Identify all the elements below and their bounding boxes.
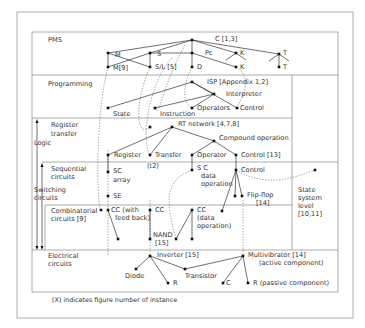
label-Inv: Inverter [15] <box>157 251 199 259</box>
annotation-label: [15] <box>155 239 169 247</box>
label-M: M <box>115 51 121 59</box>
label-Transistor: Transistor <box>184 272 217 280</box>
node-CCfb <box>107 209 110 212</box>
level-programming: Programming <box>48 80 92 88</box>
node-RT <box>171 126 174 129</box>
label-Operator: Operator <box>197 151 227 159</box>
figure-caption: [X] indicates figure number of instance <box>52 296 177 304</box>
label-D: D <box>197 63 202 71</box>
label-ISP: ISP [Appendix 1,2] <box>207 78 268 86</box>
abstraction-levels-diagram: PMS Programming Register transfer Logic … <box>0 0 365 328</box>
label-SE: SE <box>113 192 121 200</box>
node-SL <box>149 66 152 69</box>
node-SCdata <box>191 169 194 172</box>
level-pms: PMS <box>48 36 62 44</box>
node-Oper <box>191 107 194 110</box>
label-Reg: Register <box>114 151 141 159</box>
node-M <box>107 52 110 55</box>
node-T1 <box>278 53 281 56</box>
label-CC: CC <box>155 206 165 214</box>
node-FF1 <box>234 195 237 198</box>
node-S <box>149 52 152 55</box>
node-CCd2 <box>191 238 194 241</box>
node-C <box>191 39 194 42</box>
level-combinatorial-2: circuits [9] <box>51 215 86 223</box>
label-M9: M[9] <box>113 64 128 72</box>
node-K1 <box>235 52 238 55</box>
level-switching-1: Switching <box>34 186 66 194</box>
node-Comp <box>213 140 216 143</box>
level-state-system-4: [10,11] <box>298 210 322 218</box>
node-CCfbEnd <box>117 238 120 241</box>
node-Diode <box>135 268 138 271</box>
node-Trans <box>149 154 152 157</box>
label-Interp: Interpreter <box>226 90 262 98</box>
level-logic: Logic <box>34 139 52 147</box>
level-state-system-1: State <box>298 186 315 194</box>
annotation-label: [14] <box>256 199 270 207</box>
node-ISP <box>191 81 194 84</box>
annotation-label: CC (with <box>111 206 139 214</box>
node-Instr <box>154 107 157 110</box>
label-Oper: Operators <box>197 104 231 112</box>
level-register-transfer-2: transfer <box>51 130 77 138</box>
node-Ctrl2 <box>235 169 238 172</box>
node-CCleft <box>100 209 103 212</box>
level-electrical-1: Electrical <box>48 252 78 260</box>
node-SCarr <box>107 171 110 174</box>
level-switching-2: circuits <box>34 194 58 202</box>
node-Transistor <box>184 268 187 271</box>
annotation-label: NAND <box>153 231 172 239</box>
annotation-label: (active component) <box>259 259 324 267</box>
label-Pc: Pc <box>205 49 213 57</box>
label-State: State <box>113 110 130 118</box>
level-sequential-2: circuits <box>51 173 75 181</box>
label-RT: RT network [4,7,8] <box>178 120 239 128</box>
node-C2 <box>222 282 225 285</box>
label-S: S <box>157 50 161 58</box>
label-C: C [1,3] <box>215 35 237 43</box>
node-FF2 <box>241 195 244 198</box>
node-Reg <box>107 154 110 157</box>
label-R2: R (passive component) <box>253 279 329 287</box>
annotation-label: S C <box>197 164 208 172</box>
label-Trans: Transfer <box>154 151 182 159</box>
node-State <box>107 107 110 110</box>
label-R1: R <box>173 279 178 287</box>
annotation-label: data <box>201 172 216 180</box>
node-D <box>191 66 194 69</box>
node-Interp <box>213 93 216 96</box>
annotation-label: CC <box>197 206 207 214</box>
label-Ctrl1: Control <box>240 104 264 112</box>
node-R1 <box>167 282 170 285</box>
level-sequential-1: Sequential <box>51 165 86 173</box>
node-CCdata <box>191 209 194 212</box>
level-state-system-2: system <box>298 194 322 202</box>
level-state-system-3: level <box>298 202 314 210</box>
node-RTdot <box>149 126 152 129</box>
annotation-label: operation) <box>197 222 231 230</box>
label-K2: K <box>240 63 245 71</box>
node-Ctrl13 <box>235 154 238 157</box>
label-Comp: Compound operation <box>219 134 289 142</box>
node-K2 <box>235 66 238 69</box>
label-Multi: Multivibrator [14] <box>248 251 306 259</box>
node-Multi <box>242 255 245 258</box>
node-NAND <box>149 238 152 241</box>
annotation-label: (data <box>197 214 214 222</box>
level-combinatorial-1: Combinatorial <box>51 207 98 215</box>
node-Pc <box>191 52 194 55</box>
node-Inv <box>149 255 152 258</box>
level-electrical-2: circuits <box>48 260 72 268</box>
node-SE <box>107 195 110 198</box>
node-FarR <box>314 169 317 172</box>
annotation-label: Flip-flop <box>247 191 273 199</box>
annotation-label: array <box>113 176 130 184</box>
label-SL: S/L [5] <box>155 63 177 71</box>
annotation-label: SC <box>113 167 122 175</box>
node-CCd1 <box>175 238 178 241</box>
node-CC <box>149 209 152 212</box>
label-C2: C <box>226 279 231 287</box>
node-CCdataDot <box>221 210 224 213</box>
label-Ctrl2: Control <box>241 166 265 174</box>
